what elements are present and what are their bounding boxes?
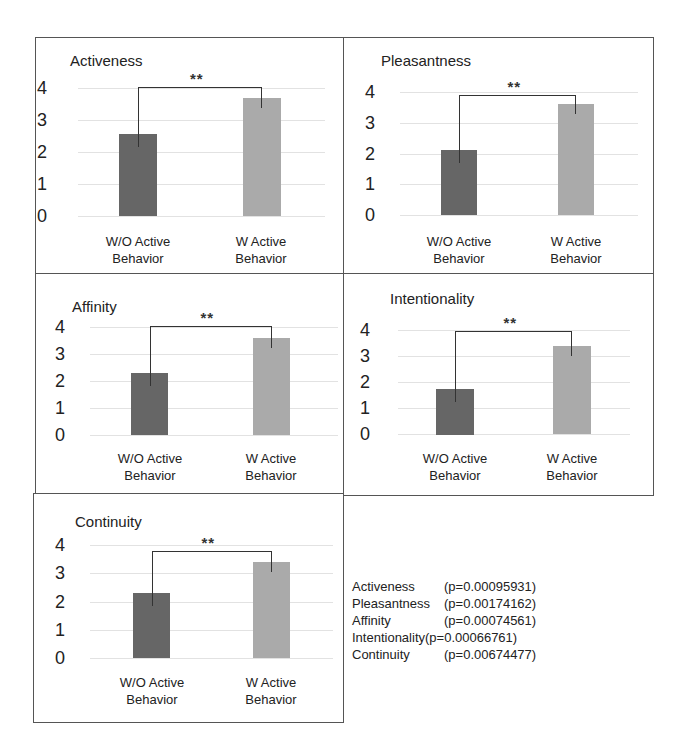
pvalue-legend: Activeness(p=0.00095931) Pleasantness(p=…	[352, 578, 536, 663]
y-tick-label: 1	[55, 399, 73, 417]
bracket-right-leg	[271, 551, 273, 572]
y-tick-label: 2	[55, 372, 73, 390]
bracket-right-leg	[271, 326, 273, 348]
gridline	[90, 658, 333, 659]
x-label-with-active-behavior: W ActiveBehavior	[521, 233, 631, 267]
bracket-left-leg	[455, 331, 457, 402]
x-label-without-active-behavior: W/O ActiveBehavior	[83, 233, 193, 267]
gridline	[398, 434, 630, 435]
significance-stars: **	[504, 314, 518, 331]
y-tick-label: 3	[365, 114, 383, 132]
significance-stars: **	[508, 78, 522, 95]
pvalue-row-continuity: Continuity(p=0.00674477)	[352, 646, 536, 663]
gridline	[90, 354, 338, 355]
y-tick-label: 3	[55, 345, 73, 363]
gridline	[90, 408, 338, 409]
significance-bracket	[150, 326, 272, 327]
x-label-line: W/O Active	[404, 233, 514, 250]
x-label-with-active-behavior: W ActiveBehavior	[216, 674, 326, 708]
gridline	[398, 356, 630, 357]
x-label-line: W/O Active	[400, 450, 510, 467]
y-tick-label: 0	[37, 207, 55, 225]
x-label-line: W Active	[206, 233, 316, 250]
x-label-with-active-behavior: W ActiveBehavior	[206, 233, 316, 267]
y-tick-label: 2	[365, 145, 383, 163]
bar-with-active-behavior	[243, 98, 281, 216]
x-label-line: W Active	[517, 450, 627, 467]
bar-with-active-behavior	[558, 104, 594, 215]
gridline	[398, 408, 630, 409]
y-tick-label: 1	[37, 175, 55, 193]
x-label-without-active-behavior: W/O ActiveBehavior	[400, 450, 510, 484]
y-tick-label: 1	[360, 399, 378, 417]
gridline	[400, 184, 638, 185]
significance-bracket	[152, 551, 272, 552]
gridline	[400, 154, 638, 155]
pvalue-row-intentionality: Intentionality(p=0.00066761)	[352, 629, 536, 646]
x-label-line: W Active	[521, 233, 631, 250]
bracket-right-leg	[575, 95, 577, 114]
gridline	[78, 184, 325, 185]
y-tick-label: 1	[365, 175, 383, 193]
y-tick-label: 4	[55, 318, 73, 336]
y-tick-label: 3	[360, 347, 378, 365]
gridline	[90, 327, 338, 328]
bar-with-active-behavior	[253, 338, 290, 435]
y-tick-label: 0	[55, 649, 73, 667]
gridline	[90, 381, 338, 382]
significance-bracket	[459, 95, 576, 96]
x-label-line: Behavior	[216, 467, 326, 484]
gridline	[78, 216, 325, 217]
y-tick-label: 2	[37, 143, 55, 161]
x-label-line: W/O Active	[83, 233, 193, 250]
y-tick-label: 0	[55, 426, 73, 444]
y-tick-label: 2	[55, 593, 73, 611]
x-label-line: Behavior	[95, 467, 205, 484]
chart-title-activeness: Activeness	[70, 52, 143, 69]
bracket-left-leg	[138, 87, 140, 147]
significance-stars: **	[190, 70, 204, 87]
bar-with-active-behavior	[553, 346, 591, 434]
significance-bracket	[138, 87, 262, 88]
bracket-right-leg	[261, 87, 263, 108]
pvalue-row-affinity: Affinity(p=0.00074561)	[352, 612, 536, 629]
gridline	[90, 435, 338, 436]
pvalue-row-pleasantness: Pleasantness(p=0.00174162)	[352, 595, 536, 612]
chart-title-intentionality: Intentionality	[390, 290, 474, 307]
significance-bracket	[455, 331, 572, 332]
significance-stars: **	[202, 534, 216, 551]
y-tick-label: 3	[37, 111, 55, 129]
chart-title-pleasantness: Pleasantness	[381, 52, 471, 69]
x-label-line: Behavior	[97, 691, 207, 708]
x-label-line: W/O Active	[97, 674, 207, 691]
pvalue-row-activeness: Activeness(p=0.00095931)	[352, 578, 536, 595]
y-tick-label: 4	[55, 536, 73, 554]
x-label-line: Behavior	[400, 467, 510, 484]
x-label-line: W/O Active	[95, 450, 205, 467]
gridline	[400, 215, 638, 216]
bracket-left-leg	[152, 551, 154, 606]
x-label-line: Behavior	[216, 691, 326, 708]
gridline	[90, 630, 333, 631]
x-label-with-active-behavior: W ActiveBehavior	[216, 450, 326, 484]
gridline	[90, 573, 333, 574]
y-tick-label: 0	[365, 206, 383, 224]
x-label-line: Behavior	[404, 250, 514, 267]
bracket-left-leg	[150, 326, 152, 386]
bracket-right-leg	[571, 331, 573, 356]
bracket-left-leg	[459, 95, 461, 163]
y-tick-label: 1	[55, 621, 73, 639]
y-tick-label: 0	[360, 425, 378, 443]
gridline	[400, 123, 638, 124]
x-label-line: W Active	[216, 450, 326, 467]
y-tick-label: 4	[360, 321, 378, 339]
significance-stars: **	[201, 309, 215, 326]
x-label-without-active-behavior: W/O ActiveBehavior	[95, 450, 205, 484]
y-tick-label: 3	[55, 564, 73, 582]
gridline	[398, 382, 630, 383]
y-tick-label: 4	[37, 79, 55, 97]
gridline	[78, 152, 325, 153]
x-label-line: Behavior	[206, 250, 316, 267]
y-tick-label: 4	[365, 83, 383, 101]
x-label-line: Behavior	[517, 467, 627, 484]
